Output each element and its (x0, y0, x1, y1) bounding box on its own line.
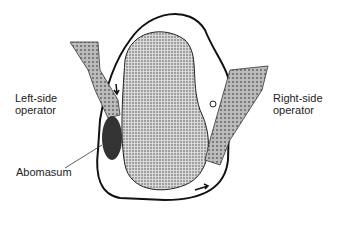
abomasum (102, 116, 122, 160)
left-operator-arm (70, 42, 120, 118)
left-operator-line1: Left-side (15, 92, 57, 104)
right-operator-line1: Right-side (273, 92, 323, 104)
left-operator-line2: operator (15, 104, 57, 116)
left-operator-label: Left-side operator (15, 92, 57, 116)
right-operator-arm (205, 66, 268, 165)
rumen (122, 32, 208, 190)
right-arrow-icon (195, 184, 208, 190)
abomasum-label: Abomasum (16, 166, 72, 178)
right-operator-line2: operator (273, 104, 323, 116)
right-operator-label: Right-side operator (273, 92, 323, 116)
down-arrow-icon (114, 84, 119, 94)
ring-marker (210, 101, 216, 107)
